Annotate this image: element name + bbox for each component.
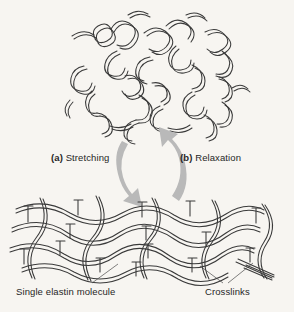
- label-stretching-text: Stretching: [63, 152, 110, 163]
- leader-crosslink-right: [228, 263, 253, 283]
- label-relaxation-tag: (b): [180, 152, 192, 163]
- leader-single-elastin: [92, 264, 118, 283]
- label-stretching: (a) Stretching: [51, 152, 109, 163]
- label-crosslinks: Crosslinks: [205, 286, 250, 297]
- label-relaxation-text: Relaxation: [192, 152, 241, 163]
- stretched-elastin-network: [0, 0, 294, 312]
- label-single-elastin-molecule: Single elastin molecule: [16, 286, 115, 297]
- elastin-elasticity-diagram: (a) Stretching (b) Relaxation Single ela…: [0, 0, 294, 312]
- label-stretching-tag: (a): [51, 152, 63, 163]
- label-relaxation: (b) Relaxation: [180, 152, 241, 163]
